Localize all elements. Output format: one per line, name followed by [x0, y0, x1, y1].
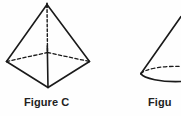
cone-base-arc [141, 74, 181, 82]
cone-slant-edge-left [141, 17, 181, 74]
cone-hidden-base-arc [141, 66, 181, 73]
figure-sheet: Figure C Figu [0, 0, 181, 116]
pyramid-lateral-edge-left [7, 5, 48, 62]
figure-d-caption: Figu [148, 96, 172, 109]
cone-figure-d [141, 17, 181, 82]
pyramid-lateral-edge-right [47, 5, 90, 62]
figure-c-caption: Figure C [24, 96, 69, 109]
pyramid-base-edge-front-left [7, 62, 49, 88]
pyramid-lateral-edge-front [47, 46, 48, 88]
pyramid-figure-c [7, 4, 90, 88]
pyramid-base-edge-front-right [48, 62, 90, 88]
